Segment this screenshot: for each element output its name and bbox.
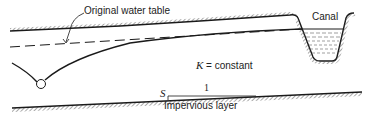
impervious-layer-label: Impervious layer (164, 101, 237, 111)
slope-symbol: S (160, 88, 166, 99)
original-water-table-label: Original water table (84, 6, 170, 16)
well (37, 80, 46, 89)
canal-label: Canal (312, 12, 338, 22)
original-water-table-dashed (10, 29, 302, 47)
drawdown-curve (12, 29, 302, 82)
slope-run-label: 1 (204, 83, 209, 93)
k-equals-constant: = constant (203, 60, 252, 71)
k-constant-label: K = constant (196, 56, 253, 72)
